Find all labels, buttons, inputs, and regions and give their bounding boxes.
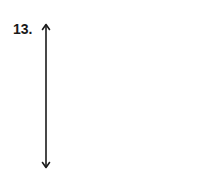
vertical-number-line-arrow [0,0,197,172]
